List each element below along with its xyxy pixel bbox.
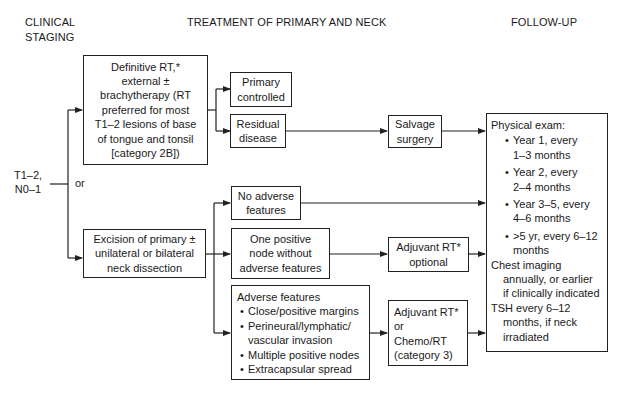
adverse-bullet: Multiple positive nodes [237, 348, 364, 362]
follow-up-item: >5 yr, every 6–12months [491, 229, 603, 258]
one-positive-node-box: One positive node without adverse featur… [231, 228, 330, 279]
no-adverse-features-box: No adverse features [231, 186, 301, 220]
box-line: or [394, 319, 462, 333]
box-line: Chemo/RT [394, 334, 462, 348]
header-line: CLINICAL [25, 15, 75, 30]
box-line: Adjuvant RT* [394, 305, 462, 319]
box-line: brachytherapy (RT [100, 88, 191, 102]
box-line: Residual [237, 117, 280, 131]
box-line: of tongue and tonsil [97, 132, 193, 146]
box-line: optional [409, 255, 448, 269]
residual-disease-box: Residual disease [230, 114, 286, 148]
item-line: >5 yr, every 6–12 [513, 230, 598, 242]
clinical-staging-header: CLINICAL STAGING [25, 15, 75, 45]
adverse-bullet: Extracapsular spread [237, 362, 364, 376]
item-line: Year 3–5, every [513, 198, 590, 210]
staging-line: T1–2, [10, 168, 46, 182]
follow-up-item: Year 1, every1–3 months [491, 133, 603, 162]
header-line: STAGING [25, 30, 75, 45]
item-line: months [513, 244, 549, 256]
staging-line: N0–1 [10, 182, 46, 196]
box-line: Adjuvant RT* [396, 240, 461, 254]
box-line: One positive [250, 232, 311, 246]
adverse-bullet: Close/positive margins [237, 304, 364, 318]
box-line: node without [249, 246, 311, 260]
follow-up-header: FOLLOW-UP [511, 15, 577, 30]
box-line: external ± [121, 74, 169, 88]
adverse-bullet: Perineural/lymphatic/vascular invasion [237, 319, 364, 348]
chest-imaging-line: Chest imaging [491, 258, 603, 272]
box-line: disease [239, 131, 277, 145]
box-line: Primary [242, 75, 280, 89]
box-line: controlled [237, 90, 285, 104]
chest-imaging-line: if clinically indicated [491, 286, 603, 300]
chest-imaging-line: annually, or earlier [491, 272, 603, 286]
follow-up-item: Year 2, every2–4 months [491, 165, 603, 194]
adjuvant-chemo-box: Adjuvant RT* or Chemo/RT (category 3) [388, 300, 468, 366]
box-line: No adverse [238, 189, 294, 203]
follow-up-item: Year 3–5, every4–6 months [491, 197, 603, 226]
box-line: (category 3) [394, 348, 462, 362]
item-line: 2–4 months [513, 181, 570, 193]
physical-exam-label: Physical exam: [491, 118, 603, 132]
adjuvant-rt-optional-box: Adjuvant RT* optional [388, 237, 469, 272]
box-line: preferred for most [102, 103, 189, 117]
item-line: 1–3 months [513, 149, 570, 161]
box-line: Excision of primary ± [93, 232, 195, 246]
definitive-rt-box: Definitive RT,* external ± brachytherapy… [83, 55, 208, 165]
box-line: unilateral or bilateral [95, 246, 194, 260]
box-line: T1–2 lesions of base [95, 117, 197, 131]
tsh-line: months, if neck [491, 315, 603, 329]
box-line: surgery [397, 132, 434, 146]
adverse-features-box: Adverse features Close/positive margins … [231, 285, 370, 380]
staging-label: T1–2, N0–1 [10, 168, 46, 197]
box-line: neck dissection [107, 261, 182, 275]
item-line: 4–6 months [513, 212, 570, 224]
box-line: Definitive RT,* [111, 60, 180, 74]
box-line: [category 2B]) [111, 146, 179, 160]
excision-box: Excision of primary ± unilateral or bila… [83, 229, 206, 278]
bullet-text-cont: vascular invasion [248, 334, 332, 346]
box-line: features [246, 203, 286, 217]
treatment-header: TREATMENT OF PRIMARY AND NECK [187, 15, 387, 30]
tsh-line: TSH every 6–12 [491, 301, 603, 315]
item-line: Year 2, every [513, 166, 577, 178]
or-label: or [75, 176, 85, 190]
bullet-text: Perineural/lymphatic/ [248, 320, 351, 332]
box-line: adverse features [240, 261, 322, 275]
salvage-surgery-box: Salvage surgery [388, 115, 442, 148]
follow-up-box: Physical exam: Year 1, every1–3 months Y… [486, 113, 608, 352]
primary-controlled-box: Primary controlled [230, 72, 292, 107]
box-line: Salvage [395, 117, 435, 131]
item-line: Year 1, every [513, 134, 577, 146]
adverse-title: Adverse features [237, 290, 364, 304]
tsh-line: irradiated [491, 330, 603, 344]
